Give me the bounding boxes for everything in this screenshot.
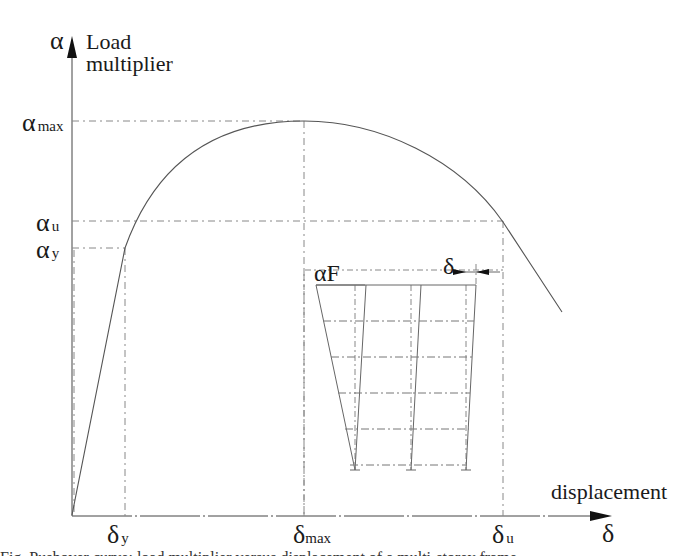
y-tick-alpha-max: αmax bbox=[22, 110, 63, 136]
y-tick-alpha-y: αy bbox=[36, 237, 59, 263]
column-1 bbox=[355, 285, 366, 470]
figure-caption: Fig. Pushover curve: load multiplier ver… bbox=[0, 549, 690, 556]
pushover-diagram: α Load multiplier αmax αu αy δy δmax δu … bbox=[0, 0, 690, 556]
column-2 bbox=[411, 285, 421, 470]
y-axis-symbol: α bbox=[50, 28, 64, 54]
x-axis-title: displacement bbox=[551, 480, 667, 504]
drift-label: δ bbox=[443, 254, 454, 278]
y-tick-alpha-u: αu bbox=[36, 210, 59, 236]
load-label: αF bbox=[314, 261, 340, 285]
capacity-curve bbox=[72, 121, 562, 515]
diagram-canvas bbox=[0, 0, 690, 556]
y-axis-arrow-icon bbox=[67, 36, 77, 58]
x-tick-delta-max: δmax bbox=[293, 522, 331, 548]
y-axis-title-line2: multiplier bbox=[86, 52, 173, 76]
x-tick-delta-u: δu bbox=[492, 522, 514, 548]
column-3 bbox=[466, 285, 476, 470]
frame-sketch bbox=[304, 264, 503, 516]
load-distribution bbox=[316, 285, 365, 470]
x-axis-symbol: δ bbox=[602, 521, 614, 547]
x-tick-delta-y: δy bbox=[107, 522, 129, 548]
